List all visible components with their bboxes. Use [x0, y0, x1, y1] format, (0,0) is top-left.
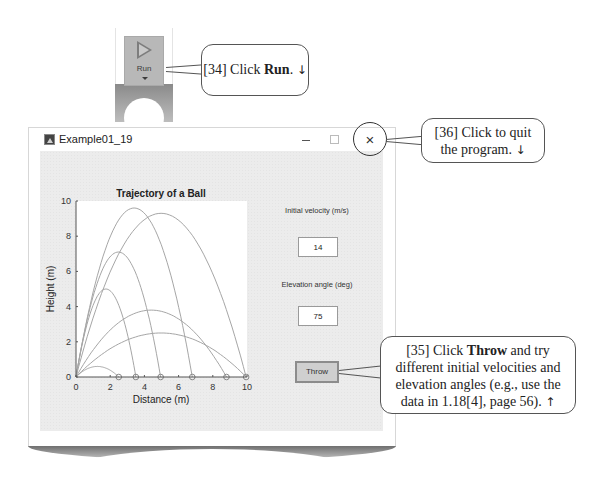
- callout-text: data in 1.18[4], page 56).: [401, 394, 542, 409]
- callout-text: different initial velocities and: [381, 359, 575, 376]
- angle-input[interactable]: [298, 306, 338, 326]
- y-tick-labels: 0246810: [61, 196, 78, 382]
- x-tick-labels: 0246810: [73, 375, 252, 392]
- callout-text: and try: [507, 343, 550, 358]
- angle-label: Elevation angle (deg): [257, 280, 377, 289]
- minimize-button[interactable]: [298, 131, 314, 147]
- x-tick-label: 4: [142, 382, 147, 392]
- callout-text: [34] Click: [203, 62, 264, 77]
- callout-text: .: [290, 62, 294, 77]
- y-tick-label: 8: [66, 231, 71, 241]
- trajectory-chart: Trajectory of a Ball 0246810 0246810 Dis…: [40, 151, 270, 431]
- close-icon: ×: [366, 131, 375, 148]
- plot-area: [76, 201, 247, 377]
- run-button-label: Run: [125, 64, 163, 73]
- callout-step-36: [36] Click to quit the program. ↓: [421, 118, 545, 163]
- callout-bold-text: Throw: [467, 343, 507, 358]
- page-curl-shadow: [28, 446, 396, 460]
- x-tick-label: 10: [242, 382, 252, 392]
- x-axis-label: Distance (m): [133, 394, 190, 405]
- arrow-down-icon: ↓: [297, 63, 307, 77]
- window-title: Example01_19: [59, 133, 132, 145]
- y-axis-label: Height (m): [45, 266, 56, 313]
- chart-title: Trajectory of a Ball: [116, 188, 206, 199]
- callout-text: elevation angles (e.g., use the: [381, 376, 575, 393]
- callout-text: [36] Click to quit: [422, 124, 544, 141]
- toolstrip-inset: Run: [116, 28, 172, 106]
- callout-step-35: [35] Click Throw and try different initi…: [380, 336, 576, 414]
- chevron-down-icon[interactable]: [142, 77, 148, 80]
- matlab-figure-icon: [44, 134, 55, 145]
- play-icon: [137, 41, 152, 59]
- velocity-input[interactable]: [298, 237, 338, 257]
- torn-edge: [115, 84, 173, 122]
- x-tick-label: 6: [176, 382, 181, 392]
- y-tick-label: 0: [66, 372, 71, 382]
- x-tick-label: 8: [210, 382, 215, 392]
- close-button[interactable]: ×: [353, 122, 387, 156]
- y-tick-label: 4: [66, 302, 71, 312]
- window-titlebar[interactable]: Example01_19: [40, 129, 359, 151]
- x-tick-label: 0: [73, 382, 78, 392]
- callout-text: [35] Click: [406, 343, 467, 358]
- x-tick-label: 2: [108, 382, 113, 392]
- callout-step-34: [34] Click Run. ↓: [201, 44, 309, 96]
- y-tick-label: 6: [66, 266, 71, 276]
- y-tick-label: 10: [61, 196, 71, 206]
- maximize-button[interactable]: [326, 131, 342, 147]
- callout-text: the program.: [440, 142, 512, 157]
- throw-button[interactable]: Throw: [295, 361, 339, 383]
- run-button[interactable]: Run: [124, 36, 164, 86]
- callout-bold-text: Run: [264, 62, 290, 77]
- arrow-down-icon: ↓: [515, 143, 525, 157]
- arrow-up-icon: ↑: [545, 395, 555, 409]
- velocity-label: Initial velocity (m/s): [257, 206, 377, 215]
- y-tick-label: 2: [66, 337, 71, 347]
